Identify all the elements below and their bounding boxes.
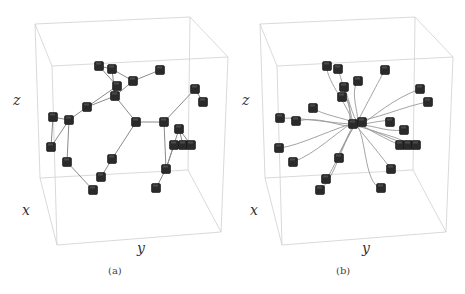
graph-edge xyxy=(164,122,166,169)
node-highlight xyxy=(130,78,135,80)
panel-a-plot xyxy=(0,0,232,294)
node-highlight xyxy=(382,67,387,69)
bounding-box-edge xyxy=(446,57,453,232)
node-highlight xyxy=(133,119,138,121)
node-highlight xyxy=(188,142,193,144)
bounding-box-edge xyxy=(260,24,265,178)
node-highlight xyxy=(290,159,295,161)
node-highlight xyxy=(64,159,69,161)
bounding-box-edge xyxy=(277,57,453,66)
node-highlight xyxy=(413,142,418,144)
node-highlight xyxy=(323,176,328,178)
node-highlight xyxy=(96,63,101,65)
node-highlight xyxy=(388,166,393,168)
node-highlight xyxy=(109,156,114,158)
node-highlight xyxy=(90,187,95,189)
node-highlight xyxy=(310,105,315,107)
node-highlight xyxy=(163,166,168,168)
node-highlight xyxy=(114,83,119,85)
node-highlight xyxy=(355,78,360,80)
bounding-box-edge xyxy=(190,17,228,57)
node-highlight xyxy=(277,115,282,117)
node-highlight xyxy=(153,185,158,187)
bounding-box-edge xyxy=(35,24,52,66)
node-highlight xyxy=(387,119,392,121)
bounding-box-edge xyxy=(52,57,228,66)
node-highlight xyxy=(405,142,410,144)
node-highlight xyxy=(324,63,329,65)
node-highlight xyxy=(48,144,53,146)
bounding-box-edge xyxy=(415,17,453,57)
node-highlight xyxy=(66,117,71,119)
bounding-box-edge xyxy=(52,66,57,245)
node-highlight xyxy=(359,119,364,121)
node-highlight xyxy=(157,67,162,69)
node-highlight xyxy=(192,86,197,88)
panel-b: z x y (b) xyxy=(232,0,464,294)
node-highlight xyxy=(200,99,205,101)
z-axis-label: z xyxy=(242,92,249,108)
bounding-box-edge xyxy=(188,170,221,232)
node-highlight xyxy=(425,99,430,101)
z-axis-label: z xyxy=(13,92,20,108)
bounding-box-edge xyxy=(35,24,40,178)
node-highlight xyxy=(417,86,422,88)
y-axis-label: y xyxy=(362,240,370,256)
node-highlight xyxy=(84,104,89,106)
bounding-box-edge xyxy=(40,178,57,245)
bounding-box-edge xyxy=(277,66,282,245)
graph-edge xyxy=(112,122,136,159)
node-highlight xyxy=(350,121,355,123)
node-highlight xyxy=(171,142,176,144)
node-highlight xyxy=(335,66,340,68)
node-highlight xyxy=(50,114,55,116)
bounding-box-edge xyxy=(35,17,190,24)
node-highlight xyxy=(378,185,383,187)
node-highlight xyxy=(401,127,406,129)
panel-a: z x y (a) xyxy=(0,0,232,294)
node-highlight xyxy=(176,126,181,128)
x-axis-label: x xyxy=(22,202,30,218)
node-highlight xyxy=(180,142,185,144)
y-axis-label: y xyxy=(137,240,145,256)
bounding-box-edge xyxy=(260,24,277,66)
x-axis-label: x xyxy=(250,202,258,218)
graph-edge xyxy=(67,120,69,162)
trajectory-curve xyxy=(354,81,358,122)
node-highlight xyxy=(112,93,117,95)
node-highlight xyxy=(339,94,344,96)
bounding-box-edge xyxy=(221,57,228,232)
bounding-box-edge xyxy=(260,17,415,24)
panel-b-plot xyxy=(232,0,465,294)
graph-edge xyxy=(164,89,195,122)
bounding-box-edge xyxy=(265,178,282,245)
node-highlight xyxy=(109,66,114,68)
node-highlight xyxy=(293,118,298,120)
node-highlight xyxy=(397,142,402,144)
node-highlight xyxy=(98,174,103,176)
panel-a-caption: (a) xyxy=(108,265,122,276)
node-highlight xyxy=(336,155,341,157)
bounding-box-edge xyxy=(413,170,446,232)
node-highlight xyxy=(161,119,166,121)
node-highlight xyxy=(341,84,346,86)
node-highlight xyxy=(317,187,322,189)
panel-b-caption: (b) xyxy=(336,265,350,276)
node-highlight xyxy=(276,145,281,147)
